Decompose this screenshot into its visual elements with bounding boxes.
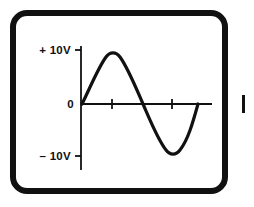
- waveform-figure: + 10V 0 – 10V: [0, 0, 254, 207]
- y-axis-label-zero: 0: [67, 98, 74, 110]
- y-axis-label-minus-10v: – 10V: [39, 150, 71, 162]
- figure-root: + 10V 0 – 10V: [0, 0, 254, 207]
- page-edge-mark: [242, 95, 245, 113]
- y-axis-label-plus-10v: + 10V: [39, 44, 71, 56]
